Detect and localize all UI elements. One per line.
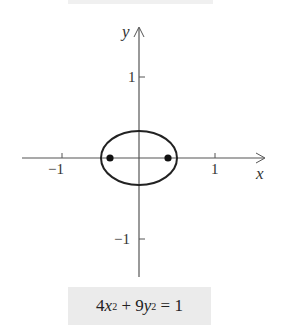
y-axis-label: y <box>122 23 130 40</box>
eq-var-b: y <box>144 296 152 316</box>
eq-plus: + <box>117 296 135 316</box>
eq-coef-a: 4 <box>96 296 105 316</box>
equation-caption: 4x2 + 9y2 = 1 <box>68 287 211 325</box>
y-tick-label-neg: −1 <box>114 232 130 247</box>
y-tick-label-pos: 1 <box>128 70 136 85</box>
ellipse-plot <box>0 0 286 286</box>
x-tick-label-neg: −1 <box>48 162 64 177</box>
focus-left-point <box>106 154 113 161</box>
eq-rhs: = 1 <box>156 296 183 316</box>
x-axis-label: x <box>256 165 264 182</box>
focus-right-point <box>164 154 171 161</box>
eq-coef-b: 9 <box>135 296 144 316</box>
x-tick-label-pos: 1 <box>211 162 219 177</box>
eq-var-a: x <box>105 296 113 316</box>
